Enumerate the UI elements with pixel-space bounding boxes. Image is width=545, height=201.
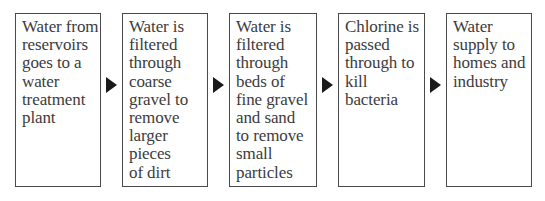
step-text: Water from reservoirs goes to a water tr…	[22, 18, 100, 127]
triangle-right-arrow-icon	[430, 77, 441, 93]
step-fine-gravel-sand-filter: Water is filtered through beds of fine g…	[229, 13, 317, 187]
step-supply-homes-industry: Water supply to homes and industry	[446, 13, 532, 187]
triangle-right-arrow-icon	[322, 77, 333, 93]
water-treatment-flowchart: Water from reservoirs goes to a water tr…	[0, 0, 545, 201]
triangle-right-arrow-icon	[106, 77, 117, 93]
step-coarse-gravel-filter: Water is filtered through coarse gravel …	[122, 13, 208, 187]
step-chlorination: Chlorine is passed through to kill bacte…	[338, 13, 425, 187]
step-text: Water is filtered through beds of fine g…	[236, 18, 316, 182]
triangle-right-arrow-icon	[213, 77, 224, 93]
step-text: Chlorine is passed through to kill bacte…	[345, 18, 424, 109]
step-text: Water supply to homes and industry	[453, 18, 531, 91]
step-reservoir-to-plant: Water from reservoirs goes to a water tr…	[15, 13, 101, 187]
step-text: Water is filtered through coarse gravel …	[129, 18, 207, 182]
